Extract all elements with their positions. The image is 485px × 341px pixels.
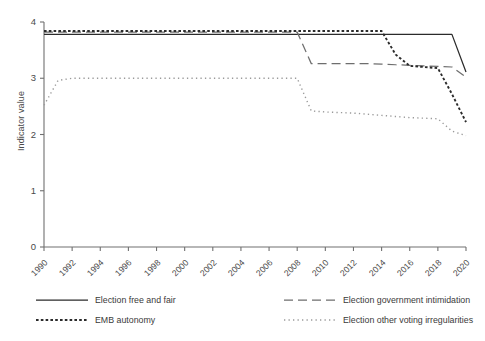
legend-item-3[interactable]: Election other voting irregularities (284, 315, 473, 325)
legend-item-0[interactable]: Election free and fair (36, 295, 176, 305)
legend-line-sample-0 (36, 295, 88, 305)
series-line-2 (44, 31, 466, 122)
plot-area (0, 0, 485, 341)
chart-legend: Election free and fairElection governmen… (36, 293, 468, 335)
chart-container: Indicator value 01234 199019921994199619… (0, 0, 485, 341)
legend-item-2[interactable]: EMB autonomy (36, 315, 155, 325)
legend-label-3: Election other voting irregularities (343, 315, 473, 325)
series-line-1 (44, 32, 466, 77)
legend-label-2: EMB autonomy (95, 315, 155, 325)
series-line-3 (44, 78, 466, 135)
legend-line-sample-2 (36, 315, 88, 325)
legend-label-0: Election free and fair (95, 295, 176, 305)
legend-item-1[interactable]: Election government intimidation (284, 295, 470, 305)
legend-line-sample-3 (284, 315, 336, 325)
legend-label-1: Election government intimidation (343, 295, 470, 305)
legend-line-sample-1 (284, 295, 336, 305)
series-line-0 (44, 34, 466, 72)
